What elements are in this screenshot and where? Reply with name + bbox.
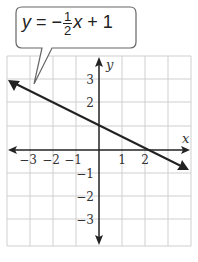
y-tick: 2	[86, 96, 94, 110]
x-tick: −1	[64, 153, 82, 167]
y-tick: −1	[76, 167, 94, 181]
y-axis-label: y	[105, 57, 114, 72]
y-axis	[95, 57, 103, 245]
x-tick: −3	[19, 153, 37, 167]
x-tick: 2	[141, 153, 149, 167]
x-tick: −2	[42, 153, 60, 167]
x-axis-label: x	[182, 131, 190, 146]
fraction: 12	[63, 10, 72, 37]
y-tick: −3	[76, 213, 94, 227]
equation-label: y = −12x + 1	[22, 10, 113, 37]
y-tick: −2	[76, 190, 94, 204]
y-tick: 3	[86, 73, 94, 87]
coordinate-plane: x y −3 −2 −1 1 2 3 2 −1 −2 −3	[0, 0, 198, 262]
x-tick: 1	[118, 153, 126, 167]
